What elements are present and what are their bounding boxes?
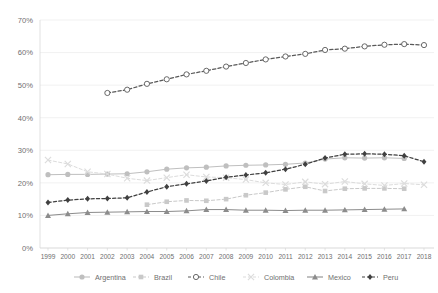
square-marker xyxy=(244,193,249,198)
diamond-marker xyxy=(362,151,367,157)
circle-marker xyxy=(65,172,70,177)
open-circle-marker xyxy=(382,42,387,47)
open-circle-marker xyxy=(342,46,347,51)
legend-item-brazil[interactable]: Brazil xyxy=(133,273,172,282)
square-marker xyxy=(164,199,169,204)
series-chile xyxy=(105,42,427,96)
x-axis-tick-label: 2001 xyxy=(80,253,95,260)
x-axis-tick-label: 2003 xyxy=(120,253,135,260)
open-circle-marker xyxy=(193,274,198,279)
circle-marker xyxy=(263,162,268,167)
open-circle-marker xyxy=(402,42,407,47)
legend-item-peru[interactable]: Peru xyxy=(362,273,398,282)
series-mexico xyxy=(45,206,407,218)
open-circle-marker xyxy=(164,77,169,82)
open-circle-marker xyxy=(243,60,248,65)
diamond-marker xyxy=(105,195,110,201)
y-axis-tick-label: 30% xyxy=(18,146,33,155)
square-marker xyxy=(204,198,209,203)
square-marker xyxy=(145,202,150,207)
circle-marker xyxy=(283,162,288,167)
circle-marker xyxy=(45,172,50,177)
x-axis-tick-label: 2014 xyxy=(338,253,353,260)
y-axis-tick-labels: 0%10%20%30%40%50%60%70% xyxy=(18,16,33,253)
open-circle-marker xyxy=(322,47,327,52)
square-marker xyxy=(323,189,328,194)
y-axis-tick-label: 50% xyxy=(18,81,33,90)
open-circle-marker xyxy=(144,81,149,86)
y-axis-tick-label: 20% xyxy=(18,179,33,188)
series-brazil xyxy=(145,184,407,207)
square-marker xyxy=(343,186,348,191)
square-marker xyxy=(283,187,288,192)
circle-marker xyxy=(79,274,84,279)
x-axis-tick-label: 2009 xyxy=(239,253,254,260)
open-circle-marker xyxy=(204,68,209,73)
y-axis-tick-label: 0% xyxy=(22,244,33,253)
series-layer xyxy=(45,42,427,218)
open-circle-marker xyxy=(283,54,288,59)
y-axis-tick-label: 70% xyxy=(18,16,33,25)
open-circle-marker xyxy=(105,90,110,95)
x-axis-tick-label: 2006 xyxy=(179,253,194,260)
series-argentina xyxy=(45,155,406,177)
circle-marker xyxy=(144,169,149,174)
x-axis-tick-label: 2010 xyxy=(258,253,273,260)
circle-marker xyxy=(184,165,189,170)
x-axis-tick-label: 2011 xyxy=(278,253,293,260)
x-axis-tick-label: 2016 xyxy=(377,253,392,260)
diamond-marker xyxy=(46,199,51,205)
legend-item-argentina[interactable]: Argentina xyxy=(74,273,126,282)
x-axis-tick-label: 2013 xyxy=(318,253,333,260)
x-axis-tick-label: 2015 xyxy=(357,253,372,260)
y-axis-tick-label: 60% xyxy=(18,48,33,57)
diamond-marker xyxy=(85,196,90,202)
open-circle-marker xyxy=(263,57,268,62)
open-circle-marker xyxy=(125,87,130,92)
open-circle-marker xyxy=(362,44,367,49)
legend-label: Chile xyxy=(209,273,225,282)
legend-label: Brazil xyxy=(154,273,172,282)
diamond-marker xyxy=(184,181,189,187)
open-circle-marker xyxy=(224,64,229,69)
x-axis-tick-label: 1999 xyxy=(41,253,56,260)
square-marker xyxy=(362,186,367,191)
series-colombia xyxy=(45,157,427,189)
y-axis-tick-label: 40% xyxy=(18,114,33,123)
open-circle-marker xyxy=(421,42,426,47)
x-axis-tick-label: 2017 xyxy=(397,253,412,260)
x-axis-tick-label: 2012 xyxy=(298,253,313,260)
gridlines xyxy=(40,20,434,251)
y-axis-tick-label: 10% xyxy=(18,211,33,220)
circle-marker xyxy=(164,167,169,172)
square-marker xyxy=(402,186,407,191)
chart-legend: ArgentinaBrazilChileColombiaMexicoPeru xyxy=(74,273,398,282)
legend-item-colombia[interactable]: Colombia xyxy=(243,273,294,282)
diamond-marker xyxy=(144,189,149,195)
legend-label: Mexico xyxy=(328,273,351,282)
diamond-marker xyxy=(368,274,373,280)
diamond-marker xyxy=(125,195,130,201)
circle-marker xyxy=(204,165,209,170)
diamond-marker xyxy=(422,159,427,165)
x-axis-tick-label: 2005 xyxy=(159,253,174,260)
circle-marker xyxy=(224,163,229,168)
square-marker xyxy=(224,197,229,202)
legend-label: Argentina xyxy=(95,273,126,282)
legend-item-chile[interactable]: Chile xyxy=(188,273,225,282)
series-line xyxy=(107,44,424,93)
x-axis-tick-label: 2008 xyxy=(219,253,234,260)
square-marker xyxy=(263,190,268,195)
diamond-marker xyxy=(263,170,268,176)
circle-marker xyxy=(125,171,130,176)
open-circle-marker xyxy=(184,72,189,77)
legend-label: Peru xyxy=(383,273,398,282)
square-marker xyxy=(184,198,189,203)
legend-item-mexico[interactable]: Mexico xyxy=(307,273,351,282)
line-chart: 0%10%20%30%40%50%60%70% 1999200020012002… xyxy=(0,0,438,293)
circle-marker xyxy=(243,163,248,168)
x-axis-tick-label: 2018 xyxy=(417,253,432,260)
diamond-marker xyxy=(65,197,70,203)
chart-canvas: 0%10%20%30%40%50%60%70% 1999200020012002… xyxy=(0,0,438,293)
x-axis-tick-label: 2007 xyxy=(199,253,214,260)
